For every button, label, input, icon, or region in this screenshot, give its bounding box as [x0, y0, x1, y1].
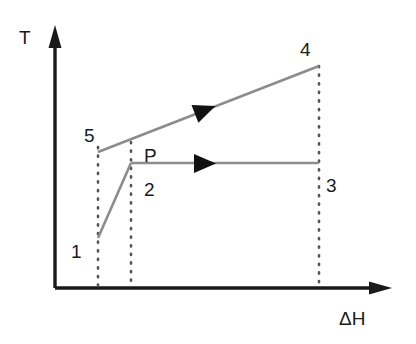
- y-axis-arrowhead: [49, 25, 62, 48]
- x-axis-label: ΔH: [339, 308, 365, 329]
- curve-compression-1-2: [98, 163, 131, 238]
- flow-arrow-2-3-icon: [194, 154, 216, 173]
- direction-arrows-group: [191, 97, 218, 173]
- state-label-5: 5: [84, 125, 95, 146]
- flow-arrow-5-4-icon: [191, 97, 218, 123]
- axes-group: [49, 25, 393, 295]
- dropdown-lines-group: [98, 66, 319, 288]
- state-label-3: 3: [326, 175, 337, 196]
- y-axis-label: T: [19, 27, 31, 48]
- state-label-1: 1: [71, 241, 82, 262]
- chart-figure: T ΔH 1 2 3 4 5 P: [0, 0, 416, 344]
- state-label-4: 4: [300, 39, 311, 60]
- chart-canvas: T ΔH 1 2 3 4 5 P: [0, 0, 416, 344]
- point-label-p: P: [144, 145, 157, 166]
- state-label-2: 2: [144, 179, 155, 200]
- labels-group: T ΔH 1 2 3 4 5 P: [19, 27, 365, 329]
- x-axis-arrowhead: [369, 282, 392, 295]
